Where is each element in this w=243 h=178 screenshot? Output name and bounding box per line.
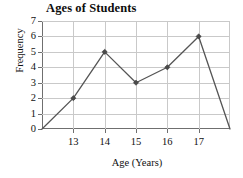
x-tick — [73, 129, 74, 133]
plot-area — [42, 21, 230, 129]
x-tick — [136, 129, 137, 133]
data-point-markers — [71, 34, 202, 101]
y-tick-label: 3 — [16, 78, 36, 88]
y-tick-label: 1 — [16, 109, 36, 119]
chart-title: Ages of Students — [46, 1, 196, 16]
data-series — [42, 21, 230, 129]
y-tick-label: 6 — [16, 31, 36, 41]
x-tick — [167, 129, 168, 133]
x-tick — [105, 129, 106, 133]
x-axis-label: Age (Years) — [43, 157, 231, 168]
x-tick — [199, 129, 200, 133]
x-tick-label: 13 — [61, 137, 85, 147]
x-tick-label: 14 — [93, 137, 117, 147]
frequency-polygon-chart: Ages of Students Frequency Age (Years) 0… — [0, 0, 243, 178]
x-tick-label: 16 — [155, 137, 179, 147]
y-tick-label: 4 — [16, 62, 36, 72]
y-tick-label: 0 — [16, 124, 36, 134]
y-tick-label: 5 — [16, 47, 36, 57]
y-tick-label: 7 — [16, 16, 36, 26]
x-tick-label: 15 — [124, 137, 148, 147]
x-tick-label: 17 — [187, 137, 211, 147]
y-tick-label: 2 — [16, 93, 36, 103]
